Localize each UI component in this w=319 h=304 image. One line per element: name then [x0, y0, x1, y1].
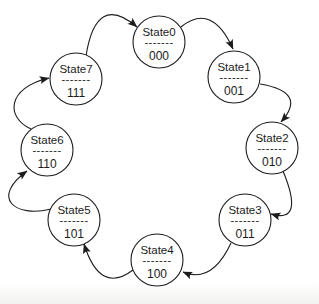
state-node-state4: State4 ------- 100	[131, 234, 183, 286]
state-code-label: 000	[149, 49, 169, 63]
state-node-state6: State6 ------- 110	[21, 124, 73, 176]
state-separator: -------	[61, 73, 90, 85]
state-separator: -------	[230, 214, 259, 226]
transition-arrow-state3-to-state4	[183, 243, 231, 275]
transition-arrow-state2-to-state3	[271, 171, 292, 216]
state-node-state0: State0 ------- 000	[133, 16, 185, 68]
state-code-label: 101	[64, 227, 84, 241]
state-separator: -------	[59, 214, 88, 226]
state-code-label: 011	[235, 227, 254, 241]
state-separator: -------	[257, 142, 286, 154]
state-node-state3: State3 ------- 011	[219, 194, 271, 246]
state-code-label: 100	[147, 267, 167, 281]
state-node-state7: State7 ------- 111	[50, 53, 102, 105]
state-diagram-page: State0 ------- 000 State1 ------- 001 St…	[0, 0, 319, 304]
state-node-state5: State5 ------- 101	[48, 194, 100, 246]
state-separator: -------	[144, 36, 173, 48]
state-separator: -------	[142, 254, 171, 266]
transition-arrow-state5-to-state6	[9, 171, 51, 211]
transition-arrow-state1-to-state2	[260, 84, 291, 122]
transition-arrow-state4-to-state5	[84, 244, 133, 278]
transition-arrow-state7-to-state0	[86, 15, 137, 56]
state-separator: -------	[219, 71, 248, 83]
state-code-label: 110	[37, 157, 56, 171]
state-code-label: 001	[224, 84, 244, 98]
state-separator: -------	[32, 144, 61, 156]
state-node-state1: State1 ------- 001	[208, 51, 260, 103]
transition-arrow-state6-to-state7	[14, 78, 49, 129]
transition-arrow-state0-to-state1	[181, 18, 233, 49]
state-node-state2: State2 ------- 010	[246, 122, 298, 174]
state-code-label: 010	[262, 155, 282, 169]
state-diagram-canvas: State0 ------- 000 State1 ------- 001 St…	[0, 0, 319, 304]
state-code-label: 111	[67, 86, 86, 100]
